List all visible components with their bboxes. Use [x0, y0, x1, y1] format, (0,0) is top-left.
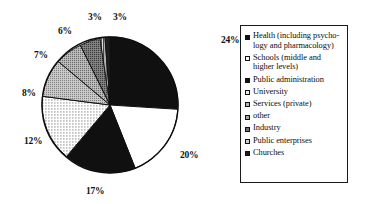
legend-label-public-enterprises: Public enterprises [253, 136, 312, 146]
legend-swatch-gray-hatch-icon [245, 115, 250, 120]
legend-label-industry: Industry [253, 123, 281, 133]
legend-label-public-administration: Public administration [253, 75, 324, 85]
pie-svg [0, 0, 230, 204]
legend-label-services: Services (private) [253, 99, 311, 109]
legend-swatch-solid-white-icon [245, 56, 250, 61]
legend-swatch-solid-black-icon [245, 35, 250, 40]
legend-item-other: other [245, 111, 344, 121]
pie-label-public-enterprises: 3% [88, 13, 102, 23]
pie-plot-area: 24% 20% 17% 12% 8% 7% 6% 3% 3% [0, 0, 230, 204]
pie-chart-figure: 24% 20% 17% 12% 8% 7% 6% 3% 3% Health (i… [0, 0, 377, 204]
pie-label-university: 12% [24, 137, 42, 147]
legend-item-industry: Industry [245, 123, 344, 133]
legend-item-health: Health (including psycho-logy and pharma… [245, 31, 344, 50]
legend-item-schools: Schools (middle andhigher levels) [245, 53, 344, 72]
legend-label-churches: Churches [253, 148, 284, 158]
pie-label-industry: 6% [58, 27, 72, 37]
legend-item-university: University [245, 87, 344, 97]
legend-label-health: Health (including psycho-logy and pharma… [253, 31, 339, 50]
legend-list: Health (including psycho-logy and pharma… [245, 31, 344, 157]
legend-item-churches: Churches [245, 148, 344, 158]
legend-swatch-dark-gray-icon [245, 127, 250, 132]
legend-swatch-solid-black-2-icon [245, 78, 250, 83]
legend-swatch-fine-dots-icon [245, 90, 250, 95]
pie-slice-health [110, 37, 178, 109]
pie-label-schools: 20% [180, 151, 198, 161]
pie-label-churches: 3% [113, 13, 127, 23]
legend-swatch-vertical-stripes-icon [245, 139, 250, 144]
chart-legend: Health (including psycho-logy and pharma… [240, 25, 348, 183]
legend-item-public-enterprises: Public enterprises [245, 136, 344, 146]
legend-swatch-near-black-icon [245, 151, 250, 156]
pie-label-other: 7% [34, 51, 48, 61]
pie-label-health: 24% [221, 36, 239, 46]
pie-label-services: 8% [22, 89, 36, 99]
legend-item-services: Services (private) [245, 99, 344, 109]
legend-label-university: University [253, 87, 288, 97]
legend-label-schools: Schools (middle andhigher levels) [253, 53, 321, 72]
legend-label-other: other [253, 111, 270, 121]
pie-label-public-administration: 17% [86, 187, 104, 197]
legend-swatch-medium-gray-icon [245, 102, 250, 107]
legend-item-public-administration: Public administration [245, 75, 344, 85]
